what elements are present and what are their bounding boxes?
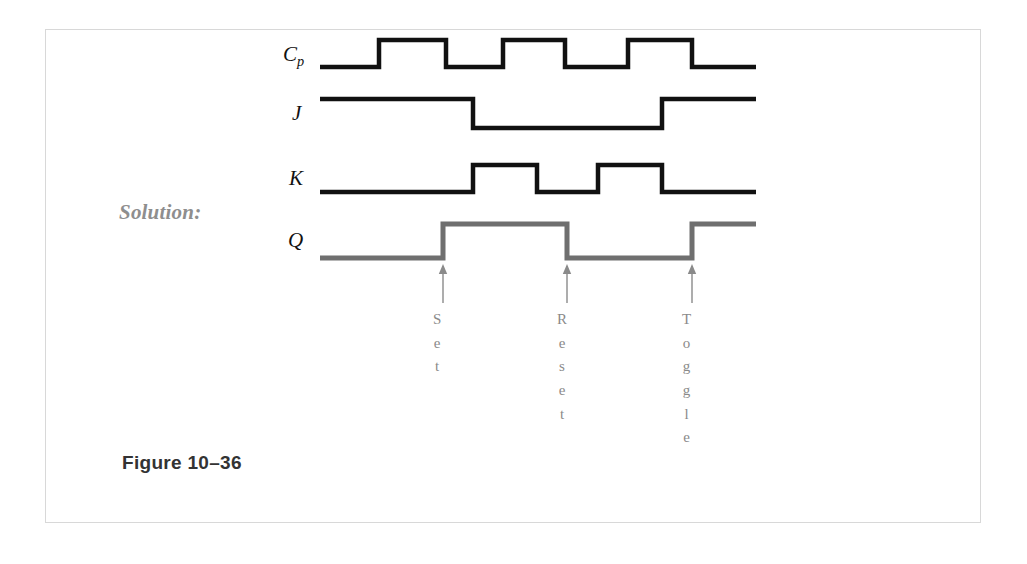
annotation-letter: e [683, 426, 690, 450]
arrow-head-reset [563, 264, 571, 274]
annotation-letter: R [557, 308, 567, 332]
figure-caption: Figure 10–36 [122, 452, 242, 474]
waveform-j [320, 99, 756, 128]
figure-page: Solution: Cp J K Q Set Reset Toggle Figu… [0, 0, 1027, 564]
annotation-letter: e [434, 332, 441, 356]
annotation-arrows [439, 264, 696, 303]
annotation-letter: o [683, 332, 691, 356]
annotation-letter: S [433, 308, 441, 332]
annotation-letter: t [560, 403, 564, 427]
waveform-cp [320, 40, 756, 67]
annotation-letter: l [685, 403, 689, 427]
timing-diagram-waveforms [0, 0, 1027, 564]
annotation-reset: Reset [557, 308, 567, 426]
annotation-set: Set [433, 308, 441, 379]
annotation-letter: g [683, 355, 691, 379]
annotation-letter: e [559, 379, 566, 403]
annotation-letter: s [559, 355, 565, 379]
waveform-k [320, 165, 756, 192]
annotation-letter: t [435, 355, 439, 379]
annotation-letter: e [559, 332, 566, 356]
annotation-letter: T [682, 308, 691, 332]
annotation-toggle: Toggle [682, 308, 691, 450]
waveform-traces [320, 40, 756, 258]
waveform-q [320, 224, 756, 258]
arrow-head-set [439, 264, 447, 274]
arrow-head-toggle [688, 264, 696, 274]
annotation-letter: g [683, 379, 691, 403]
